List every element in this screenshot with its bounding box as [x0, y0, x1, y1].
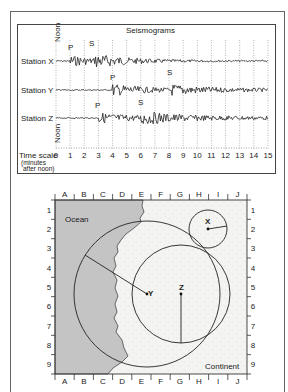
column-label-top-J: J	[235, 190, 239, 199]
station-y-p-label: P	[110, 73, 115, 82]
row-label-left-3: 3	[47, 244, 52, 253]
column-label-bottom-E: E	[139, 377, 144, 386]
column-label-bottom-B: B	[81, 377, 86, 386]
station-x-label: Station X	[21, 57, 54, 66]
tick-label-13: 13	[235, 151, 244, 160]
time-gridlines	[56, 40, 268, 150]
row-label-left-5: 5	[47, 283, 52, 292]
station-x-trace	[56, 56, 268, 67]
time-tick-labels: 0123456789101112131415	[54, 151, 273, 160]
column-label-bottom-I: I	[217, 377, 219, 386]
tick-label-12: 12	[221, 151, 230, 160]
station-x-marker	[207, 228, 210, 231]
station-z-trace	[56, 112, 268, 124]
station-y-s-label: S	[167, 68, 172, 77]
column-label-bottom-G: G	[177, 377, 183, 386]
row-label-right-1: 1	[251, 206, 256, 215]
column-label-bottom-A: A	[62, 377, 68, 386]
tick-label-7: 7	[153, 151, 158, 160]
column-label-top-A: A	[62, 190, 68, 199]
column-label-bottom-C: C	[100, 377, 106, 386]
station-z-map-label: Z	[179, 283, 184, 292]
column-label-bottom-F: F	[158, 377, 163, 386]
station-z-label: Station Z	[21, 114, 53, 123]
chart-title: Seismograms	[126, 26, 175, 35]
station-z-s-label: S	[138, 98, 143, 107]
time-scale-sub2: after noon)	[23, 165, 54, 173]
station-x-p-label: P	[68, 43, 73, 52]
noon-top-label: Noon	[53, 23, 62, 42]
row-label-left-7: 7	[47, 322, 52, 331]
station-y-label: Station Y	[21, 86, 54, 95]
tick-label-11: 11	[207, 151, 216, 160]
map-panel: AABBCCDDEEFFGGHHIIJJ112233445566778899 X…	[47, 190, 256, 386]
noon-bottom-label: Noon	[53, 124, 62, 143]
column-label-top-G: G	[177, 190, 183, 199]
tick-label-3: 3	[96, 151, 101, 160]
column-label-top-B: B	[81, 190, 86, 199]
seismogram-panel: Seismograms Noon Noon 012345678910111213…	[19, 23, 273, 173]
column-label-top-D: D	[119, 190, 125, 199]
column-label-top-E: E	[139, 190, 144, 199]
column-label-bottom-H: H	[196, 377, 202, 386]
tick-label-2: 2	[82, 151, 87, 160]
station-x-map-label: X	[205, 217, 211, 226]
station-y-trace	[56, 85, 268, 96]
row-label-right-5: 5	[251, 283, 256, 292]
ocean-label: Ocean	[65, 215, 89, 224]
tick-label-1: 1	[68, 151, 73, 160]
station-z-marker	[180, 293, 183, 296]
column-label-bottom-J: J	[235, 377, 239, 386]
row-label-right-9: 9	[251, 360, 256, 369]
row-label-right-8: 8	[251, 341, 256, 350]
column-label-top-C: C	[100, 190, 106, 199]
column-label-bottom-D: D	[119, 377, 125, 386]
tick-label-15: 15	[263, 151, 272, 160]
row-label-left-2: 2	[47, 225, 52, 234]
station-x-s-label: S	[89, 39, 94, 48]
column-label-top-F: F	[158, 190, 163, 199]
column-label-top-H: H	[196, 190, 202, 199]
row-label-right-4: 4	[251, 264, 256, 273]
row-label-right-7: 7	[251, 322, 256, 331]
row-label-left-1: 1	[47, 206, 52, 215]
continent-label: Continent	[205, 362, 240, 371]
row-label-right-6: 6	[251, 302, 256, 311]
station-y-map-label: Y	[148, 289, 154, 298]
tick-label-5: 5	[124, 151, 129, 160]
tick-label-10: 10	[193, 151, 202, 160]
row-label-left-9: 9	[47, 360, 52, 369]
station-z-p-label: P	[95, 101, 100, 110]
tick-label-9: 9	[181, 151, 186, 160]
row-label-left-8: 8	[47, 341, 52, 350]
tick-label-6: 6	[139, 151, 144, 160]
row-label-right-3: 3	[251, 244, 256, 253]
tick-label-8: 8	[167, 151, 172, 160]
column-label-top-I: I	[217, 190, 219, 199]
row-label-right-2: 2	[251, 225, 256, 234]
tick-label-14: 14	[249, 151, 258, 160]
row-label-left-6: 6	[47, 302, 52, 311]
tick-label-4: 4	[110, 151, 115, 160]
row-label-left-4: 4	[47, 264, 52, 273]
